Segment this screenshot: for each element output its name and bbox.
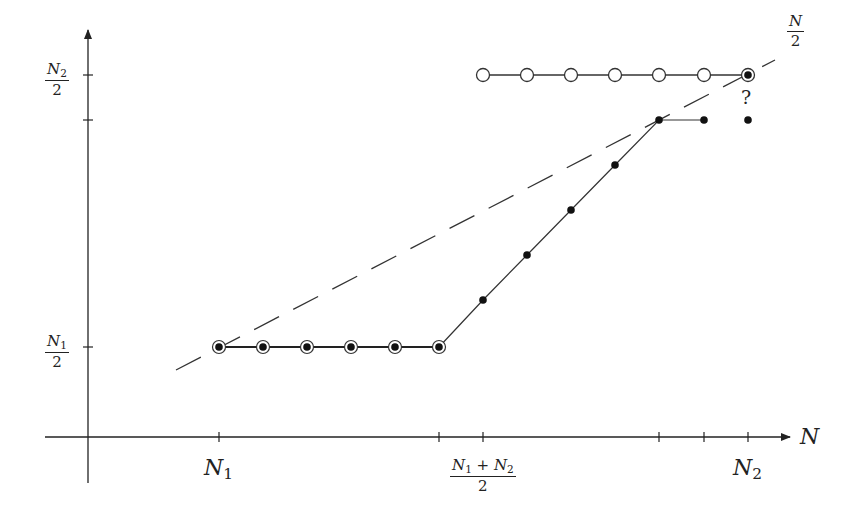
isolated-dot	[744, 116, 752, 124]
upper-end-filled-dot	[744, 71, 752, 79]
lower-filled-dots	[215, 116, 708, 351]
diagram-canvas	[0, 0, 867, 517]
question-mark-label: ?	[741, 86, 751, 108]
y-tick-label-n2-half: N2 2	[45, 60, 69, 98]
lower-rising-path	[439, 120, 704, 347]
x-tick-label-n1: N1	[204, 455, 233, 483]
dashed-line-n-over-2	[176, 60, 775, 370]
x-tick-label-midpoint: N1 + N2 2	[450, 456, 516, 494]
x-axis-label: N	[800, 424, 819, 449]
dashed-line-label: N 2	[787, 12, 804, 49]
y-tick-label-n1-half: N1 2	[45, 332, 69, 370]
x-tick-label-n2: N2	[733, 455, 762, 483]
